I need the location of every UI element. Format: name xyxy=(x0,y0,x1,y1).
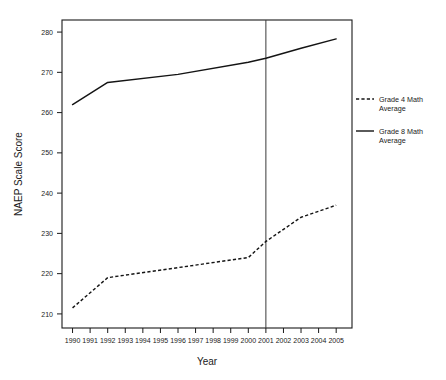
y-tick-label: 230 xyxy=(41,230,53,237)
y-tick-label: 240 xyxy=(41,190,53,197)
x-tick-label: 2000 xyxy=(241,337,257,344)
chart-svg: 210220230240250260270280 199019911992199… xyxy=(0,0,446,380)
y-axis-title: NAEP Scale Score xyxy=(13,132,24,216)
chart-figure: 210220230240250260270280 199019911992199… xyxy=(0,0,446,380)
x-tick-label: 1995 xyxy=(153,337,169,344)
x-tick-label: 1997 xyxy=(188,337,204,344)
y-tick-label: 260 xyxy=(41,109,53,116)
x-tick-label: 2001 xyxy=(258,337,274,344)
x-tick-label: 1993 xyxy=(117,337,133,344)
legend-label-grade-4-line1: Grade 4 Math xyxy=(379,95,423,104)
x-tick-label: 1998 xyxy=(205,337,221,344)
legend-label-grade-8-line1: Grade 8 Math xyxy=(379,127,423,136)
x-tick-label: 2002 xyxy=(276,337,292,344)
x-tick-label: 1994 xyxy=(135,337,151,344)
chart-background xyxy=(0,0,446,380)
x-tick-label: 1999 xyxy=(223,337,239,344)
y-tick-label: 220 xyxy=(41,270,53,277)
y-tick-label: 270 xyxy=(41,69,53,76)
y-tick-label: 250 xyxy=(41,149,53,156)
x-tick-label: 2005 xyxy=(328,337,344,344)
y-tick-label: 210 xyxy=(41,311,53,318)
y-tick-label: 280 xyxy=(41,29,53,36)
x-tick-label: 1991 xyxy=(82,337,98,344)
x-tick-label: 2004 xyxy=(311,337,327,344)
legend-label-grade-8-line2: Average xyxy=(379,136,406,145)
x-tick-label: 1992 xyxy=(100,337,116,344)
x-tick-label: 1996 xyxy=(170,337,186,344)
x-tick-label: 2003 xyxy=(293,337,309,344)
legend-label-grade-4-line2: Average xyxy=(379,104,406,113)
x-axis-title: Year xyxy=(197,356,218,367)
x-tick-label: 1990 xyxy=(65,337,81,344)
